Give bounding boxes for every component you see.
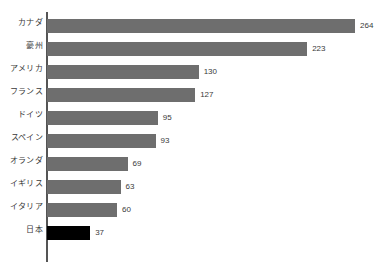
bar	[47, 42, 307, 56]
bar-row: カナダ264	[0, 12, 389, 35]
bar-row: オランダ69	[0, 150, 389, 173]
bar-row: イタリア60	[0, 196, 389, 219]
bar-value-label: 264	[360, 21, 373, 31]
category-label: フランス	[0, 87, 43, 97]
bar	[47, 134, 156, 148]
bar	[47, 65, 199, 79]
category-label: アメリカ	[0, 64, 43, 74]
bar	[47, 203, 117, 217]
category-label: イタリア	[0, 202, 43, 212]
bar-value-label: 93	[161, 136, 170, 146]
plot-area: カナダ264豪州223アメリカ130フランス127ドイツ95スペイン93オランダ…	[0, 12, 389, 263]
category-label: 豪州	[0, 41, 43, 51]
category-label: イギリス	[0, 179, 43, 189]
bar-row: ドイツ95	[0, 104, 389, 127]
bar-value-label: 223	[312, 44, 325, 54]
bar-value-label: 63	[126, 182, 135, 192]
bar-value-label: 60	[122, 205, 131, 215]
bar	[47, 19, 355, 33]
bar-row: スペイン93	[0, 127, 389, 150]
bar-rows: カナダ264豪州223アメリカ130フランス127ドイツ95スペイン93オランダ…	[0, 12, 389, 242]
bar-value-label: 37	[95, 228, 104, 238]
bar-row: イギリス63	[0, 173, 389, 196]
bar	[47, 180, 121, 194]
bar	[47, 111, 158, 125]
bar-chart: カナダ264豪州223アメリカ130フランス127ドイツ95スペイン93オランダ…	[0, 0, 389, 271]
bar-row: 豪州223	[0, 35, 389, 58]
bar-value-label: 69	[133, 159, 142, 169]
category-label: ドイツ	[0, 110, 43, 120]
bar-row: フランス127	[0, 81, 389, 104]
bar-value-label: 127	[200, 90, 213, 100]
bar-value-label: 130	[204, 67, 217, 77]
bar-row: 日本37	[0, 219, 389, 242]
bar	[47, 88, 195, 102]
category-label: カナダ	[0, 18, 43, 28]
bar	[47, 226, 90, 240]
category-label: スペイン	[0, 133, 43, 143]
bar	[47, 157, 128, 171]
category-label: 日本	[0, 225, 43, 235]
bar-row: アメリカ130	[0, 58, 389, 81]
category-label: オランダ	[0, 156, 43, 166]
bar-value-label: 95	[163, 113, 172, 123]
